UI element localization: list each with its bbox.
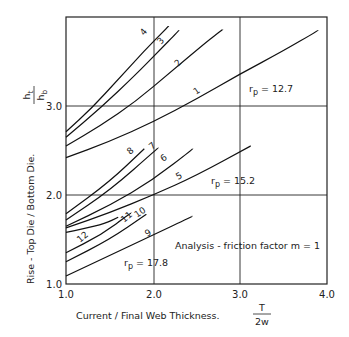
y-axis-symbol-denominator: hb bbox=[35, 89, 49, 100]
curve-label-8: 8 bbox=[125, 145, 136, 157]
curve-2 bbox=[66, 30, 223, 147]
y-tick-3: 3.0 bbox=[46, 101, 62, 112]
x-tick-1: 1.0 bbox=[58, 289, 74, 300]
annotation-rp-12-7: rp = 12.7 bbox=[249, 83, 293, 97]
annotation-rp-15-2: rp = 15.2 bbox=[211, 175, 255, 189]
curve-4 bbox=[66, 26, 169, 132]
x-tick-4: 4.0 bbox=[319, 289, 335, 300]
curve-label-4: 4 bbox=[138, 26, 150, 37]
chart: 4 3 2 1 8 7 6 5 12 11 10 9 rp = 12.7 rp … bbox=[0, 0, 349, 337]
curve-label-2: 2 bbox=[172, 57, 183, 68]
x-axis-symbol-numerator: T bbox=[258, 302, 265, 313]
curve-label-10: 10 bbox=[132, 205, 147, 220]
y-axis-label: Rise - Top Die / Bottom Die. bbox=[25, 154, 36, 284]
curve-label-1: 1 bbox=[191, 85, 201, 96]
series-group bbox=[66, 26, 318, 276]
y-tick-1: 1.0 bbox=[46, 279, 62, 290]
annotation-rp-17-8: rp = 17.8 bbox=[124, 257, 168, 271]
y-axis-symbol-numerator: ht bbox=[21, 90, 35, 99]
curve-label-9: 9 bbox=[143, 227, 153, 239]
x-axis-symbol-denominator: 2w bbox=[255, 316, 269, 327]
curve-label-6: 6 bbox=[158, 152, 169, 164]
x-tick-2: 2.0 bbox=[146, 289, 162, 300]
curve-5 bbox=[66, 146, 250, 228]
x-axis-label: Current / Final Web Thickness. bbox=[76, 310, 220, 321]
curve-label-5: 5 bbox=[174, 170, 184, 182]
annotation-analysis: Analysis - friction factor m = 1 bbox=[175, 240, 320, 251]
y-axis-symbol: ht hb bbox=[21, 86, 49, 104]
x-tick-3: 3.0 bbox=[232, 289, 248, 300]
y-tick-2: 2.0 bbox=[46, 190, 62, 201]
